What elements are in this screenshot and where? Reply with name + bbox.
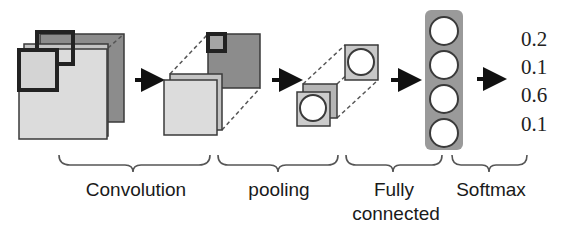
convolution-feature-maps (19, 32, 124, 139)
fully-connected-layer (425, 10, 463, 150)
kernel-window-front (19, 50, 57, 90)
fc-node (430, 119, 458, 147)
label-pooling: pooling (248, 179, 309, 200)
softmax-value: 0.2 (521, 27, 547, 51)
softmax-value: 0.1 (521, 112, 547, 136)
softmax-outputs: 0.2 0.1 0.6 0.1 (521, 27, 547, 136)
brace-pooling (218, 155, 338, 172)
braces (59, 155, 527, 172)
label-fully: Fully (374, 179, 415, 200)
pool-window (208, 34, 225, 51)
label-connected: connected (352, 203, 440, 224)
fc-node (430, 51, 458, 79)
pooled-outputs (297, 45, 378, 126)
brace-softmax (452, 155, 527, 172)
label-softmax: Softmax (456, 179, 526, 200)
cnn-diagram: 0.2 0.1 0.6 0.1 Convolution pooling Full… (0, 0, 564, 232)
softmax-value: 0.1 (521, 55, 547, 79)
brace-fully-connected (346, 155, 442, 172)
label-convolution: Convolution (86, 179, 186, 200)
pooling-feature-maps (164, 34, 260, 135)
softmax-value: 0.6 (521, 83, 547, 107)
fc-node (430, 17, 458, 45)
fc-node (430, 85, 458, 113)
brace-convolution (59, 155, 210, 172)
